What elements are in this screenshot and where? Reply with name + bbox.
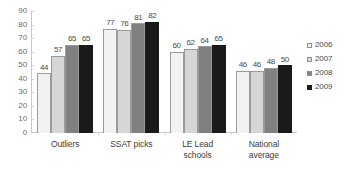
bar[interactable] [212, 45, 226, 133]
bar[interactable] [79, 45, 93, 133]
bar-groups: 44576565777681826062646546464850 [32, 11, 297, 133]
y-tick-label: 80 [18, 21, 31, 29]
bar[interactable] [264, 68, 278, 133]
y-tick-label: 20 [18, 102, 31, 110]
bar-group-bars: 60626465 [170, 11, 226, 133]
bar-value-label: 46 [239, 61, 248, 69]
bar-slot: 46 [250, 11, 264, 133]
legend-label: 2008 [315, 69, 332, 77]
bar[interactable] [103, 29, 117, 133]
bar-group: 44576565 [32, 11, 98, 133]
bar[interactable] [170, 52, 184, 133]
bar-slot: 81 [131, 11, 145, 133]
bar-value-label: 65 [68, 35, 77, 43]
bar-chart: 9080706050403020100 44576565777681826062… [0, 0, 356, 177]
category-label-line: SSAT picks [98, 139, 164, 150]
y-tick-label: 10 [18, 115, 31, 123]
chart-legend: 2006200720082009 [307, 38, 353, 94]
category-label-line: Outliers [32, 139, 98, 150]
bar-value-label: 60 [172, 42, 181, 50]
y-tick-label: 90 [18, 7, 31, 15]
bar-value-label: 62 [186, 39, 195, 47]
bar[interactable] [145, 22, 159, 133]
bar-slot: 65 [79, 11, 93, 133]
category-axis-labels: OutliersSSAT picksLE LeadschoolsNational… [32, 139, 297, 161]
legend-item[interactable]: 2007 [307, 52, 353, 66]
legend-label: 2007 [315, 55, 332, 63]
bar-value-label: 82 [148, 12, 157, 20]
bar-slot: 65 [65, 11, 79, 133]
bar-slot: 50 [278, 11, 292, 133]
legend-label: 2009 [315, 83, 332, 91]
bar-slot: 65 [212, 11, 226, 133]
legend-item[interactable]: 2009 [307, 80, 353, 94]
legend-swatch-icon [307, 43, 312, 48]
y-tick-label: 30 [18, 88, 31, 96]
legend-item[interactable]: 2006 [307, 38, 353, 52]
bar[interactable] [278, 65, 292, 133]
y-tick-label: 40 [18, 75, 31, 83]
y-tick-label: 0 [23, 129, 31, 137]
category-label-line: LE Lead [165, 139, 231, 150]
bar[interactable] [131, 23, 145, 133]
bar-slot: 57 [51, 11, 65, 133]
bar-value-label: 81 [134, 14, 143, 22]
bar-slot: 60 [170, 11, 184, 133]
bar-slot: 48 [264, 11, 278, 133]
bar[interactable] [250, 71, 264, 133]
y-tick-label: 50 [18, 61, 31, 69]
category-label-line: schools [165, 150, 231, 161]
category-label: Outliers [32, 139, 98, 161]
bar-group: 60626465 [165, 11, 231, 133]
bar-slot: 77 [103, 11, 117, 133]
bar[interactable] [184, 49, 198, 133]
bar[interactable] [236, 71, 250, 133]
legend-swatch-icon [307, 71, 312, 76]
bar-group-bars: 77768182 [103, 11, 159, 133]
bar-group: 46464850 [231, 11, 297, 133]
legend-item[interactable]: 2008 [307, 66, 353, 80]
category-separator [98, 132, 99, 135]
bar-value-label: 44 [40, 64, 49, 72]
bar-slot: 62 [184, 11, 198, 133]
bar-value-label: 50 [281, 56, 290, 64]
bar-value-label: 76 [120, 20, 129, 28]
category-label-line: average [231, 150, 297, 161]
legend-swatch-icon [307, 85, 312, 90]
bar[interactable] [37, 73, 51, 133]
bar-group: 77768182 [98, 11, 164, 133]
bar-group-bars: 44576565 [37, 11, 93, 133]
category-separator [165, 132, 166, 135]
bar-value-label: 65 [82, 35, 91, 43]
bar-value-label: 77 [106, 19, 115, 27]
y-tick-label: 60 [18, 48, 31, 56]
bar[interactable] [65, 45, 79, 133]
bar-value-label: 64 [200, 37, 209, 45]
category-label: SSAT picks [98, 139, 164, 161]
legend-label: 2006 [315, 41, 332, 49]
bar-value-label: 65 [214, 35, 223, 43]
bar-slot: 64 [198, 11, 212, 133]
bar-group-bars: 46464850 [236, 11, 292, 133]
bar[interactable] [198, 46, 212, 133]
bar[interactable] [117, 30, 131, 133]
legend-swatch-icon [307, 57, 312, 62]
bar-slot: 76 [117, 11, 131, 133]
bar-slot: 44 [37, 11, 51, 133]
bar[interactable] [51, 56, 65, 133]
bar-slot: 46 [236, 11, 250, 133]
category-label: Nationalaverage [231, 139, 297, 161]
bar-slot: 82 [145, 11, 159, 133]
y-tick-label: 70 [18, 34, 31, 42]
bar-value-label: 48 [267, 58, 276, 66]
bar-value-label: 46 [253, 61, 262, 69]
bar-value-label: 57 [54, 46, 63, 54]
category-label-line: National [231, 139, 297, 150]
category-separator [231, 132, 232, 135]
category-label: LE Leadschools [165, 139, 231, 161]
